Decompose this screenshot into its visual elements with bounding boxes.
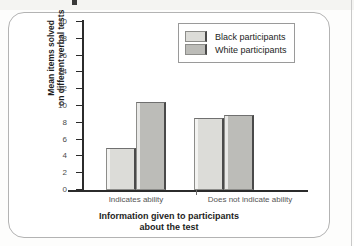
y-tick-4: 4 xyxy=(76,155,82,156)
bar-highlight xyxy=(195,119,198,189)
y-tick-12: 12 xyxy=(76,88,82,89)
scan-artifact-top-band xyxy=(0,0,354,10)
x-axis-title-line-2: about the test xyxy=(8,222,330,233)
bar-1-0 xyxy=(194,118,224,190)
y-tick-10: 10 xyxy=(76,105,82,106)
x-tick-label-0: Indicates ability xyxy=(109,195,164,204)
x-axis-title: Information given to participants about … xyxy=(8,211,330,233)
legend-swatch-icon-black-participants xyxy=(185,31,207,42)
y-tick-label-0: 0 xyxy=(63,185,67,194)
y-tick-label-4: 4 xyxy=(63,151,67,160)
y-axis-title-line-1: Mean items solved xyxy=(46,10,56,106)
bar-0-0 xyxy=(106,148,136,190)
bar-0-1 xyxy=(136,102,166,190)
y-tick-16: 16 xyxy=(76,55,82,56)
y-tick-6: 6 xyxy=(76,139,82,140)
x-tick-label-1: Does not indicate ability xyxy=(208,195,293,204)
legend-label-white-participants: White participants xyxy=(215,45,287,55)
y-tick-20: 20 xyxy=(76,21,82,22)
y-tick-14: 14 xyxy=(76,71,82,72)
y-tick-label-16: 16 xyxy=(58,50,67,59)
x-axis-group-divider xyxy=(196,190,197,195)
scan-artifact-text-fragment xyxy=(72,0,77,5)
bar-highlight xyxy=(137,103,140,189)
y-tick-0: 0 xyxy=(76,189,82,190)
y-tick-18: 18 xyxy=(76,38,82,39)
scan-artifact-right-line xyxy=(351,0,352,246)
chart-page: Mean items solved on different verbal te… xyxy=(0,0,354,246)
y-tick-label-12: 12 xyxy=(58,84,67,93)
y-tick-2: 2 xyxy=(76,172,82,173)
y-tick-label-2: 2 xyxy=(63,168,67,177)
x-axis-line xyxy=(68,190,308,192)
bar-1-1 xyxy=(224,115,254,190)
y-tick-label-18: 18 xyxy=(58,33,67,42)
y-tick-label-20: 20 xyxy=(58,17,67,26)
y-tick-label-14: 14 xyxy=(58,67,67,76)
bar-highlight xyxy=(107,149,110,189)
y-tick-label-8: 8 xyxy=(63,117,67,126)
y-tick-label-6: 6 xyxy=(63,134,67,143)
bar-highlight xyxy=(225,116,228,189)
legend-swatch-icon-white-participants xyxy=(185,44,207,55)
legend-entry-white-participants: White participants xyxy=(185,44,287,55)
y-tick-8: 8 xyxy=(76,122,82,123)
x-axis-title-line-1: Information given to participants xyxy=(8,211,330,222)
legend-label-black-participants: Black participants xyxy=(215,32,286,42)
chart-legend: Black participants White participants xyxy=(178,23,295,63)
y-tick-label-10: 10 xyxy=(58,101,67,110)
legend-entry-black-participants: Black participants xyxy=(185,31,287,42)
